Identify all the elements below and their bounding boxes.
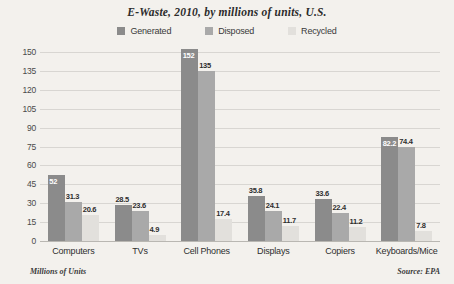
source-note: Source: EPA (397, 267, 440, 276)
bar-generated[interactable]: 33.6 (315, 199, 332, 241)
grid-line (40, 90, 440, 91)
bar-value-label: 52 (49, 177, 57, 186)
x-axis-label-keyboards-mice: Keyboards/Mice (373, 246, 440, 256)
bar-column: 35.8 (248, 52, 265, 241)
bar-value-label: 74.4 (399, 137, 412, 146)
bar-column: 22.4 (332, 52, 349, 241)
bar-value-label: 33.6 (316, 189, 329, 198)
bar-disposed[interactable]: 23.6 (132, 211, 149, 241)
y-axis-tick-label: 30 (2, 198, 36, 208)
bar-column: 82.2 (381, 52, 398, 241)
bar-value-label: 17.4 (216, 209, 229, 218)
bar-group: 5231.320.6 (48, 52, 99, 241)
y-axis-tick-label: 75 (2, 142, 36, 152)
bar-disposed[interactable]: 31.3 (65, 202, 82, 241)
bar-recycled[interactable]: 11.2 (349, 227, 366, 241)
bar-column: 20.6 (82, 52, 99, 241)
bar-disposed[interactable]: 24.1 (265, 211, 282, 241)
y-axis-tick-label: 105 (2, 104, 36, 114)
chart-container: E-Waste, 2010, by millions of units, U.S… (0, 0, 454, 284)
legend-swatch-icon (205, 27, 213, 35)
bar-generated[interactable]: 28.5 (115, 205, 132, 241)
legend-item-recycled[interactable]: Recycled (288, 26, 336, 36)
legend-item-disposed[interactable]: Disposed (205, 26, 254, 36)
bar-column: 23.6 (132, 52, 149, 241)
bar-column: 17.4 (215, 52, 232, 241)
bar-column: 152 (181, 52, 198, 241)
legend-label: Disposed (218, 26, 254, 36)
legend-item-generated[interactable]: Generated (117, 26, 171, 36)
x-axis-label-copiers: Copiers (307, 246, 374, 256)
bar-recycled[interactable]: 17.4 (215, 219, 232, 241)
grid-line (40, 222, 440, 223)
bar-column: 11.7 (282, 52, 299, 241)
bar-value-label: 4.9 (150, 225, 160, 234)
bar-column: 4.9 (149, 52, 166, 241)
bar-group: 35.824.111.7 (248, 52, 299, 241)
legend-label: Generated (130, 26, 171, 36)
y-axis-tick-label: 0 (2, 236, 36, 246)
legend-swatch-icon (288, 27, 296, 35)
bar-value-label: 152 (183, 51, 195, 60)
bar-value-label: 24.1 (266, 201, 279, 210)
bar-generated[interactable]: 152 (181, 49, 198, 241)
y-axis-tick-label: 135 (2, 66, 36, 76)
y-axis-tick-label: 150 (2, 47, 36, 57)
bar-column: 11.2 (349, 52, 366, 241)
grid-line (40, 128, 440, 129)
bar-column: 31.3 (65, 52, 82, 241)
bar-value-label: 7.8 (416, 221, 426, 230)
grid-line (40, 71, 440, 72)
bar-column: 33.6 (315, 52, 332, 241)
bar-value-label: 11.7 (283, 216, 296, 225)
bar-column: 28.5 (115, 52, 132, 241)
bar-recycled[interactable]: 7.8 (415, 231, 432, 241)
bar-recycled[interactable]: 4.9 (149, 235, 166, 241)
units-note: Millions of Units (30, 267, 86, 276)
legend-label: Recycled (301, 26, 336, 36)
grid-line (40, 109, 440, 110)
bar-value-label: 35.8 (249, 186, 262, 195)
bar-recycled[interactable]: 20.6 (82, 215, 99, 241)
bar-group: 15213517.4 (181, 52, 232, 241)
grid-line (40, 165, 440, 166)
bar-value-label: 82.2 (383, 139, 396, 148)
grid-line (40, 147, 440, 148)
y-axis-tick-label: 60 (2, 160, 36, 170)
legend-swatch-icon (117, 27, 125, 35)
bar-generated[interactable]: 52 (48, 175, 65, 241)
bar-group: 82.274.47.8 (381, 52, 432, 241)
x-axis-label-displays: Displays (240, 246, 307, 256)
bar-group: 33.622.411.2 (315, 52, 366, 241)
bar-value-label: 135 (199, 61, 211, 70)
bar-value-label: 20.6 (83, 205, 96, 214)
y-axis-tick-label: 120 (2, 85, 36, 95)
bar-group: 28.523.64.9 (115, 52, 166, 241)
bar-disposed[interactable]: 22.4 (332, 213, 349, 241)
y-axis-tick-label: 90 (2, 123, 36, 133)
bar-recycled[interactable]: 11.7 (282, 226, 299, 241)
grid-line (40, 184, 440, 185)
bar-generated[interactable]: 82.2 (381, 137, 398, 241)
grid-line (40, 52, 440, 53)
bar-disposed[interactable]: 74.4 (398, 147, 415, 241)
x-axis-label-computers: Computers (40, 246, 107, 256)
chart-title: E-Waste, 2010, by millions of units, U.S… (0, 6, 454, 18)
grid-line (40, 241, 440, 242)
bar-value-label: 11.2 (350, 217, 363, 226)
x-axis-label-tvs: TVs (107, 246, 174, 256)
bar-column: 7.8 (415, 52, 432, 241)
x-axis-label-cell-phones: Cell Phones (173, 246, 240, 256)
bar-generated[interactable]: 35.8 (248, 196, 265, 241)
bar-value-label: 23.6 (133, 201, 146, 210)
bar-column: 74.4 (398, 52, 415, 241)
bar-value-label: 31.3 (66, 192, 79, 201)
grid-line (40, 203, 440, 204)
chart-legend: GeneratedDisposedRecycled (0, 26, 454, 36)
bar-value-label: 28.5 (116, 195, 129, 204)
bar-disposed[interactable]: 135 (198, 71, 215, 241)
plot-area: 01530456075901051201351505231.320.628.52… (40, 52, 440, 241)
bar-column: 52 (48, 52, 65, 241)
bar-column: 24.1 (265, 52, 282, 241)
bar-column: 135 (198, 52, 215, 241)
